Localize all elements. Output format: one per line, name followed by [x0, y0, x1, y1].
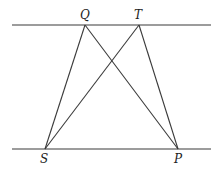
segment-TP: [139, 25, 178, 149]
segment-TS: [45, 25, 139, 149]
label-Q: Q: [80, 8, 90, 22]
label-S: S: [40, 152, 48, 166]
label-P: P: [173, 152, 183, 166]
label-T: T: [134, 8, 143, 22]
segment-QP: [85, 25, 178, 149]
geometry-diagram: Q T S P: [0, 0, 224, 169]
segment-QS: [45, 25, 85, 149]
